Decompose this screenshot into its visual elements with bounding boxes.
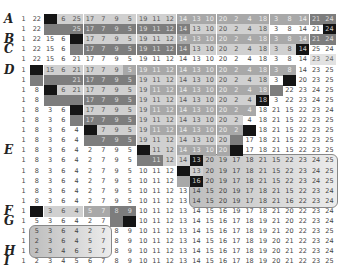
grid-cell: 5	[70, 256, 83, 266]
grid-cell: 10	[137, 256, 150, 266]
grid-cell: 2	[30, 256, 43, 266]
grid-cell: 14	[190, 256, 203, 266]
grid-cell: 15	[203, 256, 216, 266]
grid-cell: 18	[243, 256, 256, 266]
row-label: I	[4, 256, 18, 266]
grid-cell: 19	[256, 256, 269, 266]
grid-cell: 7	[97, 256, 110, 266]
grid-cell: 8	[110, 256, 123, 266]
grid-cell: 25	[323, 256, 336, 266]
grid-cell: 20	[270, 256, 283, 266]
grid-cell: 22	[296, 256, 309, 266]
grid-cell: 21	[283, 256, 296, 266]
grid-cell: 3	[44, 256, 57, 266]
grid-cell: 17	[230, 256, 243, 266]
grid-cell: 13	[177, 256, 190, 266]
grid-cell: 6	[84, 256, 97, 266]
permutation-grid: A122625177951911121413102024183814212412…	[0, 0, 351, 266]
grid-cell: 12	[163, 256, 176, 266]
grid-cell: 1	[17, 256, 30, 266]
grid-cell: 9	[123, 256, 136, 266]
grid-cell: 16	[217, 256, 230, 266]
grid-cell: 23	[310, 256, 323, 266]
grid-cell: 4	[57, 256, 70, 266]
grid-row: I123456789101112131415161718192021222325	[0, 256, 351, 266]
grid-cell: 11	[150, 256, 163, 266]
